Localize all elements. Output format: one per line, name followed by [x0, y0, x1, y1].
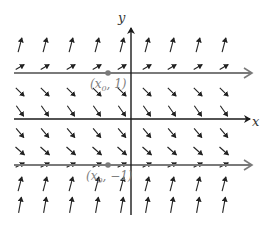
- slope-arrow: [196, 38, 200, 52]
- slope-arrow: [222, 177, 226, 191]
- slope-arrow: [223, 197, 226, 213]
- slope-arrow: [220, 128, 228, 137]
- slope-arrow: [168, 88, 176, 96]
- slope-arrow: [120, 38, 124, 52]
- slope-arrow: [194, 128, 202, 137]
- slope-arrow: [168, 106, 175, 117]
- slope-arrow: [16, 128, 24, 137]
- slope-arrow: [18, 38, 22, 52]
- slope-arrow: [168, 128, 176, 137]
- slope-arrow: [118, 106, 125, 117]
- slope-arrow: [143, 65, 152, 70]
- slope-arrow: [69, 177, 73, 191]
- slope-arrow: [194, 65, 203, 70]
- slope-arrow: [43, 177, 47, 191]
- slope-arrow: [95, 38, 99, 52]
- slope-arrow: [70, 197, 73, 213]
- slope-arrow: [69, 38, 73, 52]
- slope-arrow: [41, 65, 50, 70]
- x-axis-label: x: [252, 114, 260, 129]
- slope-arrow: [67, 88, 75, 96]
- slope-arrow: [93, 65, 102, 70]
- slope-arrow: [93, 128, 101, 137]
- slope-arrow: [194, 106, 201, 117]
- slope-arrow: [67, 106, 74, 117]
- slope-arrow: [41, 147, 50, 155]
- slope-arrow: [16, 88, 24, 96]
- slope-arrow: [67, 147, 76, 155]
- label-x0-neg1: (x0, −1): [86, 169, 133, 185]
- slope-arrow: [194, 88, 202, 96]
- slope-arrow: [96, 197, 99, 213]
- slope-arrow: [168, 147, 177, 155]
- slope-arrow: [171, 197, 174, 213]
- slope-arrow: [220, 106, 227, 117]
- slope-arrow: [196, 177, 200, 191]
- slope-arrow: [16, 147, 25, 155]
- slope-arrow: [16, 65, 25, 70]
- slope-arrow: [43, 38, 47, 52]
- slope-field-diagram: x y (x0, 1) (x0, −1): [0, 0, 272, 228]
- point-x0-neg1: [105, 162, 111, 168]
- slope-arrow: [145, 38, 149, 52]
- slope-arrow: [118, 147, 127, 155]
- slope-arrow: [143, 106, 150, 117]
- slope-arrow: [220, 65, 229, 70]
- slope-arrow: [194, 147, 203, 155]
- slope-arrow: [19, 197, 22, 213]
- slope-arrow: [146, 197, 149, 213]
- slope-arrow: [67, 65, 76, 70]
- label-x0-1: (x0, 1): [90, 77, 127, 93]
- slope-arrow: [143, 128, 151, 137]
- slope-arrow: [41, 106, 48, 117]
- slope-arrow: [93, 147, 102, 155]
- slope-arrow: [93, 106, 100, 117]
- slope-arrow: [143, 88, 151, 96]
- slope-arrow: [16, 106, 23, 117]
- slope-arrow: [145, 177, 149, 191]
- slope-arrow: [220, 147, 229, 155]
- point-labels: (x0, 1) (x0, −1): [86, 77, 133, 185]
- slope-arrow: [168, 65, 177, 70]
- slope-arrow: [118, 65, 127, 70]
- y-axis-label: y: [117, 10, 126, 25]
- axes: x y: [14, 10, 260, 215]
- slope-arrow: [41, 88, 49, 96]
- slope-arrow: [222, 38, 226, 52]
- slope-arrow: [197, 197, 200, 213]
- slope-arrow: [170, 38, 174, 52]
- slope-arrow: [143, 147, 152, 155]
- slope-arrow: [44, 197, 47, 213]
- slope-arrow: [118, 128, 126, 137]
- slope-arrow: [41, 128, 49, 137]
- slope-arrow: [220, 88, 228, 96]
- point-x0-1: [105, 70, 111, 76]
- slope-arrow: [18, 177, 22, 191]
- slope-arrow: [67, 128, 75, 137]
- slope-arrow: [121, 197, 124, 213]
- slope-arrow: [170, 177, 174, 191]
- slope-field-arrows: [16, 38, 229, 213]
